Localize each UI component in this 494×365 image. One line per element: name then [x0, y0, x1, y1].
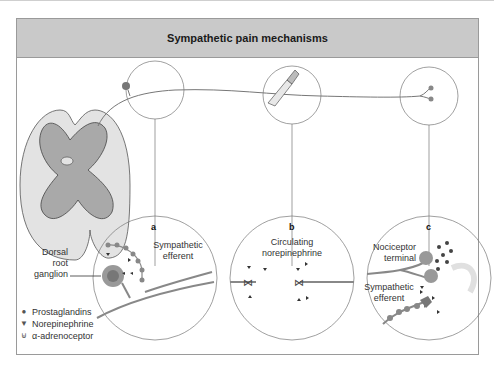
drg-soma-icon — [122, 82, 130, 90]
panel-c-efferent-label: Sympathetic efferent — [362, 282, 416, 304]
panel-a-efferent-label: Sympathetic efferent — [146, 240, 210, 262]
legend-item-prostaglandins: ● Prostaglandins — [20, 306, 94, 318]
circle-dot-icon: ● — [20, 306, 28, 318]
legend-item-norepinephrine: ▼ Norepinephrine — [20, 318, 94, 330]
feedback-arrow — [452, 266, 474, 292]
panel-c-letter: c — [426, 222, 431, 232]
legend-item-adrenoceptor: ⊌ α-adrenoceptor — [20, 330, 94, 342]
spinal-cord-icon — [20, 110, 130, 260]
drg-label: Dorsal root ganglion — [20, 247, 68, 280]
panel-b-label: Circulating norepinephrine — [250, 237, 334, 259]
panel-b-letter: b — [289, 222, 295, 232]
svg-text:⋈: ⋈ — [243, 277, 253, 288]
zoom-circle-3 — [400, 67, 458, 125]
triangle-down-icon: ▼ — [20, 318, 28, 330]
legend: ● Prostaglandins ▼ Norepinephrine ⊌ α-ad… — [20, 306, 94, 342]
panel-a-letter: a — [151, 222, 156, 232]
sensory-nerve — [98, 90, 420, 126]
receptor-cup-icon: ⊌ — [20, 330, 28, 342]
nociceptor-label: Nociceptor terminal — [366, 242, 416, 264]
scalpel-icon — [268, 70, 299, 106]
svg-text:⋈: ⋈ — [294, 277, 304, 288]
